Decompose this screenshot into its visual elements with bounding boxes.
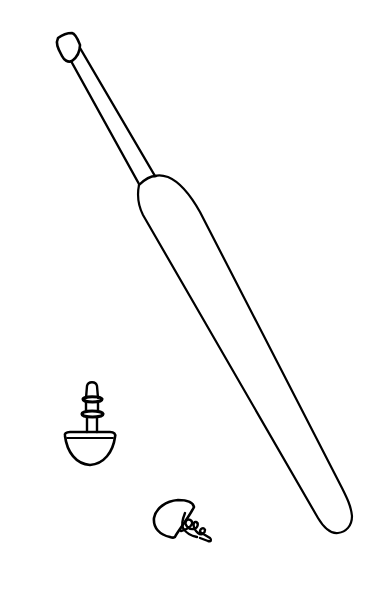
hook-shaft-right — [80, 48, 155, 176]
hook-shaft-left — [71, 61, 139, 184]
eye-dome — [65, 432, 116, 465]
safety-eye-upright-icon — [65, 382, 116, 465]
hook-collar — [139, 176, 156, 185]
illustration-canvas — [0, 0, 381, 598]
hook-tip — [57, 33, 80, 62]
hook-handle — [138, 175, 352, 533]
crochet-hook-icon — [57, 33, 352, 533]
eye-stem-low — [87, 418, 97, 432]
safety-eye-tilted-icon — [154, 500, 211, 541]
line-drawing — [0, 0, 381, 598]
eye-ring-bottom — [82, 411, 103, 417]
eye2-stem — [181, 513, 211, 541]
